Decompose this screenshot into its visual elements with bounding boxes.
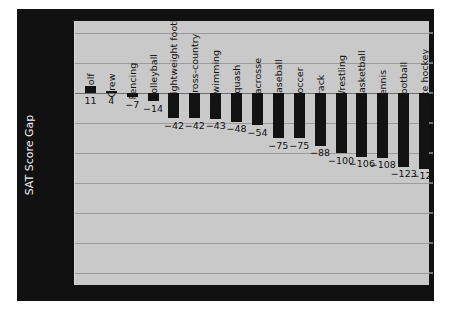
bar: [398, 93, 409, 167]
bar-category-label: Lacrosse: [253, 58, 263, 100]
bar-category-label: Football: [399, 62, 409, 100]
bar-category-label: Soccer: [294, 67, 304, 99]
gridline: [75, 153, 429, 154]
gridline: [75, 183, 429, 184]
chart-figure: SAT Score Gap 100500−50−100−150−200−250−…: [0, 0, 450, 315]
bar-category-label: Crew: [106, 73, 116, 97]
gridline: [75, 213, 429, 214]
bar-value-label: −14: [139, 104, 167, 114]
bar: [336, 93, 347, 153]
bar-value-label: −54: [244, 128, 272, 138]
bar: [419, 93, 429, 169]
bar-category-label: Squash: [232, 65, 242, 100]
bar-category-label: Ice hockey: [420, 49, 429, 100]
plot-area: Golf11Crew4Fencing−7Volleyball−14Lightwe…: [74, 21, 429, 285]
bar-value-label: −126: [411, 171, 429, 181]
bar-category-label: Track: [315, 75, 325, 100]
gridline: [75, 243, 429, 244]
bar: [273, 93, 284, 138]
bar: [356, 93, 367, 157]
bar-category-label: Cross-country: [190, 34, 200, 100]
bar-category-label: Volleyball: [148, 54, 158, 99]
chart-frame: SAT Score Gap 100500−50−100−150−200−250−…: [17, 9, 434, 301]
bar: [315, 93, 326, 146]
bar: [377, 93, 388, 158]
y-axis-title: SAT Score Gap: [23, 115, 36, 196]
bar-category-label: Golf: [85, 74, 95, 93]
bar-category-label: Lightweight football: [169, 21, 179, 100]
bar: [294, 93, 305, 138]
gridline: [75, 273, 429, 274]
bar-category-label: Tennis: [378, 70, 388, 100]
gridline: [75, 33, 429, 34]
bar-category-label: Fencing: [127, 63, 137, 100]
bar-category-label: Baseball: [273, 59, 283, 99]
bar-category-label: Swimming: [211, 50, 221, 100]
y-axis-title-wrap: SAT Score Gap: [31, 9, 32, 301]
bar-category-label: Basketball: [357, 50, 367, 99]
bar-category-label: Wrestling: [336, 55, 346, 100]
